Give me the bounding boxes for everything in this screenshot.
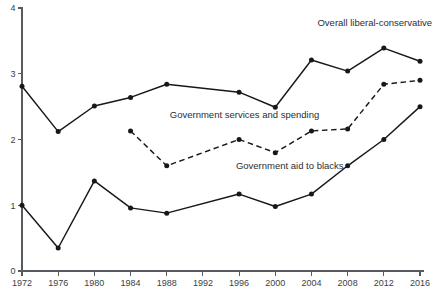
series-1 bbox=[20, 46, 423, 135]
x-axis-tick-label: 1980 bbox=[84, 278, 104, 288]
data-point-marker bbox=[309, 128, 314, 133]
data-point-marker bbox=[418, 59, 423, 64]
series-3 bbox=[20, 104, 423, 250]
x-axis: 1972197619801984198819921996200020042008… bbox=[12, 271, 430, 288]
data-point-marker bbox=[345, 69, 350, 74]
y-axis: 01234 bbox=[10, 3, 22, 276]
x-axis-tick-label: 2016 bbox=[410, 278, 430, 288]
series-label-2: Government services and spending bbox=[170, 109, 319, 120]
x-axis-tick-label: 1988 bbox=[157, 278, 177, 288]
x-axis-tick-label: 1996 bbox=[229, 278, 249, 288]
data-point-marker bbox=[273, 204, 278, 209]
data-point-marker bbox=[381, 137, 386, 142]
data-point-marker bbox=[56, 245, 61, 250]
data-point-marker bbox=[237, 192, 242, 197]
data-point-marker bbox=[309, 192, 314, 197]
y-axis-tick-label: 0 bbox=[10, 266, 15, 276]
data-point-marker bbox=[418, 104, 423, 109]
series-label-3: Government aid to blacks bbox=[236, 160, 344, 171]
y-axis-tick-label: 3 bbox=[10, 69, 15, 79]
data-point-marker bbox=[20, 203, 25, 208]
y-axis-tick-label: 2 bbox=[10, 135, 15, 145]
data-point-marker bbox=[20, 84, 25, 89]
data-point-marker bbox=[345, 163, 350, 168]
data-point-marker bbox=[237, 90, 242, 95]
y-axis-tick-label: 1 bbox=[10, 201, 15, 211]
data-point-marker bbox=[128, 205, 133, 210]
series-annotations: Overall liberal-conservativeGovernment s… bbox=[170, 17, 432, 171]
x-axis-tick-label: 1976 bbox=[48, 278, 68, 288]
data-point-marker bbox=[418, 78, 423, 83]
data-point-marker bbox=[237, 137, 242, 142]
data-point-marker bbox=[381, 46, 386, 51]
series-label-1: Overall liberal-conservative bbox=[317, 17, 432, 28]
series-2 bbox=[128, 78, 422, 168]
data-point-marker bbox=[92, 103, 97, 108]
data-point-marker bbox=[128, 128, 133, 133]
x-axis-tick-label: 2008 bbox=[338, 278, 358, 288]
x-axis-tick-label: 2004 bbox=[301, 278, 321, 288]
data-point-marker bbox=[345, 126, 350, 131]
data-point-marker bbox=[164, 82, 169, 87]
x-axis-tick-label: 2012 bbox=[374, 278, 394, 288]
data-point-marker bbox=[56, 129, 61, 134]
data-point-marker bbox=[164, 163, 169, 168]
series-layer bbox=[20, 46, 423, 251]
y-axis-tick-label: 4 bbox=[10, 3, 15, 13]
data-point-marker bbox=[273, 150, 278, 155]
chart-container: 01234 1972197619801984198819921996200020… bbox=[0, 0, 432, 301]
x-axis-tick-label: 1972 bbox=[12, 278, 32, 288]
x-axis-tick-label: 1992 bbox=[193, 278, 213, 288]
series-path bbox=[22, 107, 420, 248]
x-axis-tick-label: 2000 bbox=[265, 278, 285, 288]
data-point-marker bbox=[128, 95, 133, 100]
x-axis-tick-label: 1984 bbox=[121, 278, 141, 288]
data-point-marker bbox=[164, 211, 169, 216]
data-point-marker bbox=[309, 57, 314, 62]
data-point-marker bbox=[381, 82, 386, 87]
data-point-marker bbox=[92, 178, 97, 183]
line-chart: 01234 1972197619801984198819921996200020… bbox=[0, 0, 432, 301]
